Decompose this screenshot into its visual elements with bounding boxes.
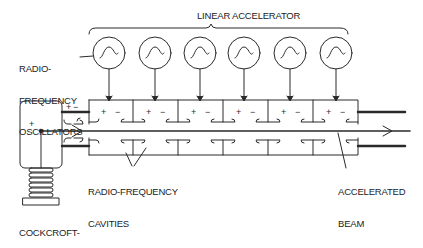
svg-text:−: − — [205, 107, 210, 117]
generator-label: COCKCROFT- WALTON GENERATOR — [19, 207, 80, 248]
svg-text:−: − — [115, 107, 120, 117]
oscillator-3 — [184, 37, 216, 101]
generator-insulator-stack — [23, 168, 59, 205]
svg-text:+: + — [281, 107, 286, 117]
oscillator-5 — [274, 37, 306, 101]
oscillator-6 — [320, 37, 352, 101]
oscillator-2 — [139, 37, 171, 101]
svg-text:+: + — [101, 107, 106, 117]
oscillators-label: RADIO- FREQUENCY OSCILLATORS — [19, 43, 82, 148]
svg-text:−: − — [250, 107, 255, 117]
drift-tubes-bottom — [64, 138, 358, 143]
oscillator-1 — [93, 37, 125, 101]
svg-text:+: + — [146, 107, 151, 117]
svg-text:−: − — [295, 107, 300, 117]
beam-label: ACCELERATED BEAM — [338, 166, 405, 240]
oscillator-4 — [228, 37, 260, 101]
cavities-label: RADIO-FREQUENCY CAVITIES — [88, 166, 178, 240]
linear-accelerator-label: LINEAR ACCELERATOR — [197, 11, 300, 22]
linear-accelerator-brace — [89, 24, 348, 34]
svg-text:+: + — [191, 107, 196, 117]
svg-text:+: + — [326, 107, 331, 117]
beam-pointer — [338, 133, 346, 168]
svg-text:−: − — [340, 107, 345, 117]
cavity-housing — [89, 100, 358, 155]
drift-tubes-top — [64, 118, 358, 124]
svg-text:−: − — [160, 107, 165, 117]
svg-text:+: + — [236, 107, 241, 117]
